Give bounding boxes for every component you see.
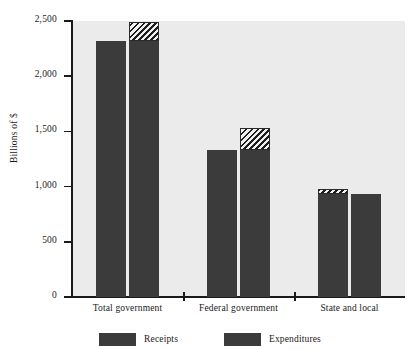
- x-tick-mark: [294, 292, 296, 301]
- category-label: Total government: [93, 303, 163, 313]
- y-axis-line: [71, 20, 73, 298]
- y-tick-label: 500: [42, 235, 57, 245]
- legend-item-expenditures: Expenditures: [224, 333, 321, 346]
- y-tick-label: 2,000: [35, 69, 57, 79]
- y-tick-label: 1,000: [35, 180, 57, 190]
- bar-hatch-cap: [240, 128, 270, 151]
- y-tick-label: 0: [52, 290, 57, 300]
- y-tick-mark: [64, 75, 72, 77]
- category-label: Federal government: [199, 303, 278, 313]
- legend-label-expenditures: Expenditures: [269, 334, 321, 344]
- bar-receipts-1: [207, 150, 237, 297]
- y-tick-mark: [64, 131, 72, 133]
- legend-swatch-icon-expenditures: [224, 333, 261, 346]
- y-tick-mark: [64, 186, 72, 188]
- y-tick-mark: [64, 241, 72, 243]
- x-tick-mark: [183, 292, 185, 301]
- y-tick-label: 1,500: [35, 124, 57, 134]
- bar-hatch-cap: [129, 22, 159, 41]
- bar-expenditures-0: [129, 22, 159, 297]
- legend-label-receipts: Receipts: [144, 334, 178, 344]
- y-tick-label: 2,500: [35, 14, 57, 24]
- bar-receipts-0: [96, 41, 126, 297]
- y-tick-mark: [64, 296, 72, 298]
- bar-expenditures-1: [240, 128, 270, 297]
- y-tick-mark: [64, 20, 72, 22]
- bar-receipts-2: [318, 189, 348, 297]
- bar-hatch-cap: [318, 189, 348, 194]
- legend-item-receipts: Receipts: [99, 333, 178, 346]
- y-axis-title: Billions of $: [9, 88, 19, 188]
- bar-chart-figure: Billions of $ 05001,0001,5002,0002,500 T…: [0, 0, 420, 350]
- legend-swatch-icon-receipts: [99, 333, 136, 346]
- bar-expenditures-2: [351, 194, 381, 297]
- category-label: State and local: [320, 303, 378, 313]
- chart-legend: Receipts Expenditures: [0, 329, 420, 349]
